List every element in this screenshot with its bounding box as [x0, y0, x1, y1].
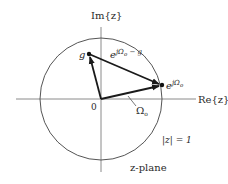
angle-leader-line	[128, 96, 136, 106]
point-g	[87, 52, 91, 56]
point-g-label: g	[79, 49, 85, 60]
plane-title: z-plane	[130, 162, 167, 173]
point-e-label: ejΩo	[166, 79, 184, 91]
z-plane-diagram: Im{z} Re{z} 0 g ejΩo ejΩo − g Ωo |z| = 1…	[0, 0, 228, 184]
unit-circle-label: |z| = 1	[162, 135, 192, 146]
diagram-svg: Im{z} Re{z} 0 g ejΩo ejΩo − g Ωo |z| = 1…	[0, 0, 228, 184]
vector-g-to-e	[89, 54, 159, 84]
point-e-jomega	[160, 83, 164, 87]
vector-origin-to-e	[101, 86, 159, 99]
vector-origin-to-g	[90, 57, 101, 99]
angle-label: Ωo	[136, 105, 148, 117]
origin-label: 0	[91, 102, 97, 112]
imag-axis-label: Im{z}	[91, 10, 122, 21]
difference-vector-label: ejΩo − g	[110, 48, 143, 60]
real-axis-label: Re{z}	[198, 94, 228, 105]
